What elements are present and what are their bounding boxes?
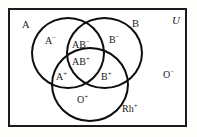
region-sign-ab-negative: − bbox=[86, 38, 90, 45]
region-base-ab-positive: AB bbox=[72, 56, 86, 67]
region-label-b-positive: B+ bbox=[101, 72, 112, 82]
region-label-b-negative: B− bbox=[109, 35, 120, 45]
set-label-a: A bbox=[22, 20, 30, 31]
region-sign-b-negative: − bbox=[116, 33, 120, 40]
region-base-b-positive: B bbox=[101, 71, 108, 82]
region-sign-a-negative: − bbox=[52, 34, 56, 41]
region-label-ab-positive: AB+ bbox=[72, 57, 90, 67]
region-label-a-negative: A− bbox=[45, 36, 56, 46]
region-sign-b-positive: + bbox=[108, 70, 112, 77]
region-sign-o-negative: − bbox=[170, 68, 174, 75]
region-sign-ab-positive: + bbox=[86, 55, 90, 62]
region-label-a-positive: A+ bbox=[56, 72, 67, 82]
region-base-b-negative: B bbox=[109, 34, 116, 45]
region-base-ab-negative: AB bbox=[72, 39, 86, 50]
venn-circle-rh bbox=[51, 47, 129, 122]
region-label-o-negative: O− bbox=[163, 70, 174, 80]
region-sign-o-positive: + bbox=[84, 93, 88, 100]
universal-set-label: U bbox=[172, 15, 180, 26]
region-label-o-positive: O+ bbox=[77, 95, 88, 105]
set-label-b: B bbox=[132, 19, 139, 30]
region-label-ab-negative: AB− bbox=[72, 40, 90, 50]
set-label-rh-positive: Rh+ bbox=[122, 104, 138, 114]
region-sign-a-positive: + bbox=[63, 70, 67, 77]
set-base-rh-positive: Rh bbox=[122, 103, 134, 114]
venn-diagram-canvas: U A B A− B− AB− AB+ A+ B+ O+ O− Rh+ bbox=[0, 0, 197, 137]
set-sign-rh-positive: + bbox=[134, 102, 138, 109]
